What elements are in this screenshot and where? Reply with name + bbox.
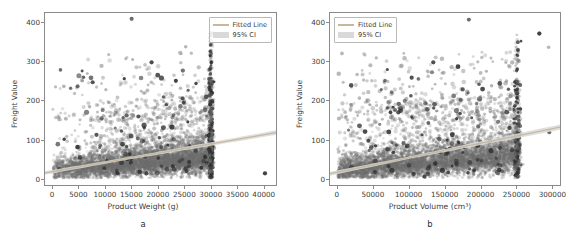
y-tick-mark xyxy=(326,100,329,101)
x-tick-label: 40000 xyxy=(252,190,275,199)
plot-area-a: Fitted Line 95% CI xyxy=(44,12,277,186)
legend-entry-fitted-line[interactable]: Fitted Line xyxy=(213,21,267,29)
legend-entry-fitted-line[interactable]: Fitted Line xyxy=(338,21,392,29)
y-tick-label: 300 xyxy=(311,57,325,66)
x-tick-label: 300000 xyxy=(539,190,566,199)
y-tick-mark xyxy=(41,140,44,141)
y-tick-label: 0 xyxy=(320,174,325,183)
legend-label-ci: 95% CI xyxy=(233,31,256,39)
y-tick-label: 200 xyxy=(311,96,325,105)
x-tick-label: 0 xyxy=(50,190,55,199)
fitted-line-swatch-icon xyxy=(213,24,229,25)
x-tick-label: 5000 xyxy=(69,190,87,199)
y-tick-label: 0 xyxy=(35,174,40,183)
x-tick-label: 25000 xyxy=(173,190,196,199)
x-tick-mark xyxy=(211,186,212,189)
legend-label-fitted-line: Fitted Line xyxy=(358,21,392,29)
y-tick-label: 200 xyxy=(26,96,40,105)
x-tick-mark xyxy=(184,186,185,189)
panel-a: Fitted Line 95% CI 0100200300400 Freight… xyxy=(0,0,286,241)
x-tick-mark xyxy=(105,186,106,189)
x-tick-label: 30000 xyxy=(199,190,222,199)
y-tick-label: 100 xyxy=(26,135,40,144)
y-axis-label-a: Freight Value xyxy=(10,80,19,128)
legend-entry-ci[interactable]: 95% CI xyxy=(338,31,392,39)
x-tick-mark xyxy=(158,186,159,189)
legend-entry-ci[interactable]: 95% CI xyxy=(213,31,267,39)
y-axis-label-b: Freight Value xyxy=(295,80,304,128)
panel-b: Fitted Line 95% CI 0100200300400 Freight… xyxy=(287,0,573,241)
y-tick-mark xyxy=(41,100,44,101)
x-tick-mark xyxy=(373,186,374,189)
x-tick-mark xyxy=(481,186,482,189)
y-tick-mark xyxy=(41,61,44,62)
ci-band-swatch-icon xyxy=(338,32,354,38)
fitted-line-swatch-icon xyxy=(338,24,354,25)
x-tick-mark xyxy=(445,186,446,189)
x-axis-label-b: Product Volume (cm³) xyxy=(287,202,573,211)
x-tick-label: 50000 xyxy=(361,190,384,199)
legend-label-ci: 95% CI xyxy=(358,31,381,39)
x-tick-label: 20000 xyxy=(146,190,169,199)
x-tick-mark xyxy=(409,186,410,189)
subplot-caption-b: b xyxy=(287,219,573,229)
x-tick-label: 35000 xyxy=(226,190,249,199)
y-tick-label: 400 xyxy=(311,17,325,26)
x-tick-mark xyxy=(337,186,338,189)
x-axis-ticks-b: 050000100000150000200000250000300000 xyxy=(329,186,561,202)
x-tick-mark xyxy=(78,186,79,189)
y-tick-label: 400 xyxy=(26,17,40,26)
x-axis-label-a: Product Weight (g) xyxy=(0,202,286,211)
y-tick-mark xyxy=(326,140,329,141)
y-tick-mark xyxy=(326,22,329,23)
legend-b[interactable]: Fitted Line 95% CI xyxy=(334,17,397,43)
x-tick-mark xyxy=(52,186,53,189)
x-tick-label: 250000 xyxy=(503,190,530,199)
legend-label-fitted-line: Fitted Line xyxy=(233,21,267,29)
x-tick-label: 150000 xyxy=(431,190,458,199)
y-tick-mark xyxy=(326,179,329,180)
y-tick-mark xyxy=(41,179,44,180)
figure-canvas: Fitted Line 95% CI 0100200300400 Freight… xyxy=(0,0,573,241)
x-tick-mark xyxy=(237,186,238,189)
y-tick-label: 300 xyxy=(26,57,40,66)
x-tick-mark xyxy=(264,186,265,189)
x-tick-mark xyxy=(516,186,517,189)
x-tick-label: 200000 xyxy=(467,190,494,199)
ci-band-swatch-icon xyxy=(213,32,229,38)
x-tick-mark xyxy=(131,186,132,189)
x-tick-label: 10000 xyxy=(93,190,116,199)
x-tick-mark xyxy=(552,186,553,189)
subplot-caption-a: a xyxy=(0,219,286,229)
y-tick-mark xyxy=(326,61,329,62)
plot-area-b: Fitted Line 95% CI xyxy=(329,12,561,186)
y-tick-mark xyxy=(41,22,44,23)
y-tick-label: 100 xyxy=(311,135,325,144)
x-axis-ticks-a: 0500010000150002000025000300003500040000 xyxy=(44,186,277,202)
x-tick-label: 15000 xyxy=(120,190,143,199)
x-tick-label: 0 xyxy=(335,190,340,199)
x-tick-label: 100000 xyxy=(395,190,422,199)
legend-a[interactable]: Fitted Line 95% CI xyxy=(209,17,272,43)
